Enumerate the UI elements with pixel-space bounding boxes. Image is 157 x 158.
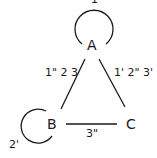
node-b: B bbox=[47, 117, 57, 131]
graph-lines bbox=[0, 0, 157, 158]
edge-a-c-label: 1' 2" 3' bbox=[114, 67, 153, 78]
node-a: A bbox=[87, 38, 97, 52]
edge-b-c-label: 3" bbox=[86, 128, 98, 139]
self-loop-b-label: 2' bbox=[9, 139, 19, 150]
self-loop-a-label: 1 bbox=[91, 0, 98, 5]
node-c: C bbox=[126, 117, 136, 131]
edge-a-b-label: 1" 2 3 bbox=[45, 67, 78, 78]
